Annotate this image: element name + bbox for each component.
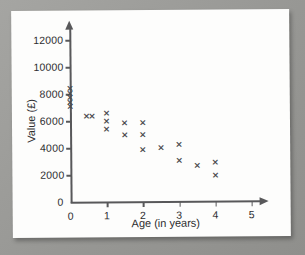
y-axis-tick-label: 4000 <box>12 142 64 154</box>
data-point-marker <box>175 141 182 148</box>
y-axis-tick-label: 2000 <box>12 169 64 181</box>
y-axis-tick <box>65 40 70 41</box>
textbook-page: 020004000600080001000012000 012345 Value… <box>11 9 291 238</box>
x-axis-tick <box>215 201 216 206</box>
y-axis-title: Value (£) <box>25 78 38 164</box>
data-point-marker <box>157 144 164 151</box>
data-point-marker <box>193 162 200 169</box>
data-point-marker <box>121 132 128 139</box>
data-point-marker <box>175 157 182 164</box>
x-axis-tick <box>107 202 108 207</box>
scatter-chart: 020004000600080001000012000 012345 Value… <box>11 9 291 238</box>
data-point-marker <box>103 125 110 132</box>
x-axis-title: Age (in years) <box>71 216 261 229</box>
y-axis-tick <box>66 148 71 149</box>
data-point-marker <box>66 103 73 110</box>
data-point-marker <box>88 113 95 120</box>
data-point-marker <box>121 120 128 127</box>
data-point-marker <box>212 172 219 179</box>
data-point-marker <box>139 132 146 139</box>
x-axis-arrow-icon <box>260 197 269 205</box>
data-point-marker <box>139 147 146 154</box>
y-axis-tick-label: 6000 <box>12 115 64 127</box>
x-axis-tick <box>179 202 180 207</box>
y-axis-tick <box>66 67 71 68</box>
y-axis-arrow-icon <box>65 21 73 30</box>
y-axis-tick <box>66 121 71 122</box>
y-axis-tick-label: 0 <box>52 196 64 208</box>
x-axis-tick <box>252 201 253 206</box>
y-axis-tick <box>66 175 71 176</box>
data-point-marker <box>212 159 219 166</box>
y-axis-line <box>69 29 72 203</box>
x-axis-tick <box>143 202 144 207</box>
y-axis-tick-label: 8000 <box>12 88 64 100</box>
data-point-marker <box>139 120 146 127</box>
x-axis-line <box>71 201 261 204</box>
y-axis-tick-label: 12000 <box>11 34 63 46</box>
y-axis-tick-label: 10000 <box>12 61 64 73</box>
